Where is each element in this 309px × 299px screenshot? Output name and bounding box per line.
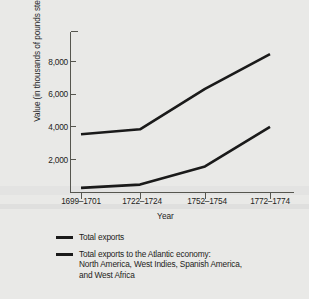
x-tick-label-1722-1724: 1722–1724 — [122, 196, 162, 206]
x-axis-tick-labels: 1699–1701 1722–1724 1752–1754 1772–1774 — [0, 196, 309, 210]
legend-label-total-exports: Total exports — [79, 232, 124, 243]
y-tick-marks — [71, 62, 76, 160]
legend-label-line: North America, West Indies, Spanish Amer… — [79, 259, 242, 270]
series-line-atlantic-economy — [81, 127, 270, 188]
chart-legend: Total exports Total exports to the Atlan… — [56, 232, 306, 286]
legend-label-atlantic-economy: Total exports to the Atlantic economy: N… — [79, 249, 242, 281]
legend-label-line: Total exports — [79, 232, 124, 243]
legend-item-atlantic-economy: Total exports to the Atlantic economy: N… — [56, 249, 306, 281]
x-tick-label-1699-1701: 1699–1701 — [61, 196, 101, 206]
series-line-total-exports — [81, 54, 270, 134]
legend-label-line: and West Africa — [79, 270, 242, 281]
legend-label-line: Total exports to the Atlantic economy: — [79, 249, 242, 260]
x-axis-title-text: Year — [157, 211, 174, 221]
x-axis-title: Year — [0, 211, 309, 221]
x-tick-label-1752-1754: 1752–1754 — [187, 196, 227, 206]
x-tick-label-1772-1774: 1772–1774 — [250, 196, 290, 206]
legend-swatch-icon-atlantic-economy — [56, 253, 73, 256]
chart-figure: Value (in thousands of pounds sterling) … — [0, 0, 309, 299]
legend-item-total-exports: Total exports — [56, 232, 306, 243]
legend-swatch-icon-total-exports — [56, 236, 73, 239]
axis-lines — [71, 32, 294, 193]
